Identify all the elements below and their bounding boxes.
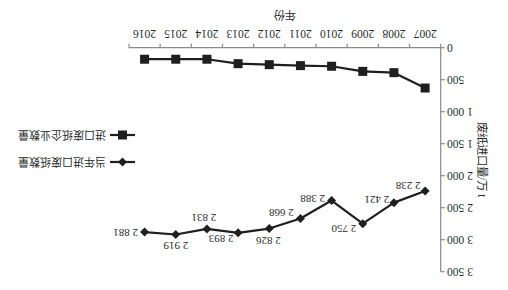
chart-container: 05001 0001 5002 0002 5003 0003 500200720… xyxy=(0,0,508,290)
y-axis-title: 废纸进口量/万 t xyxy=(476,122,489,198)
y-tick-label: 500 xyxy=(447,74,465,86)
y-tick-label: 2 000 xyxy=(447,170,473,182)
legend-square-icon xyxy=(118,131,127,140)
diamond-marker xyxy=(234,228,243,237)
square-marker xyxy=(234,59,243,68)
y-tick-label: 1 000 xyxy=(447,106,473,118)
y-tick-label: 0 xyxy=(447,42,453,54)
legend-label: 进口废纸企业数量 xyxy=(18,129,106,142)
data-label: 2 668 xyxy=(269,207,294,219)
y-tick-label: 3 000 xyxy=(447,234,473,246)
square-marker xyxy=(296,61,305,70)
x-axis-title: 年份 xyxy=(273,9,296,22)
series-line xyxy=(145,59,426,88)
square-marker xyxy=(421,84,430,93)
y-tick-label: 1 500 xyxy=(447,138,473,150)
legend-item-diamond: 当年进口废纸数量 xyxy=(18,156,135,169)
diamond-marker xyxy=(265,224,274,233)
diamond-marker xyxy=(171,230,180,239)
square-marker xyxy=(389,68,398,77)
diamond-marker xyxy=(296,214,305,223)
square-marker xyxy=(202,55,211,64)
data-label: 2 750 xyxy=(331,223,356,235)
line-chart: 05001 0001 5002 0002 5003 0003 500200720… xyxy=(0,0,508,290)
data-label: 2 826 xyxy=(255,235,280,247)
x-tick-label: 2012 xyxy=(258,28,281,40)
data-label: 2 388 xyxy=(300,193,325,205)
diamond-marker xyxy=(140,228,149,237)
data-label: 2 421 xyxy=(365,194,390,206)
square-marker xyxy=(140,55,149,64)
legend-diamond-icon xyxy=(118,158,127,167)
y-tick-label: 2 500 xyxy=(447,202,473,214)
square-marker xyxy=(171,55,180,64)
x-tick-label: 2008 xyxy=(382,28,405,40)
data-label: 2 893 xyxy=(208,233,233,245)
y-tick-label: 3 500 xyxy=(447,266,473,278)
square-marker xyxy=(327,62,336,71)
square-marker xyxy=(358,67,367,76)
x-tick-label: 2010 xyxy=(320,28,343,40)
data-label: 2 831 xyxy=(192,212,217,224)
x-tick-label: 2011 xyxy=(289,28,312,40)
square-marker xyxy=(265,60,274,69)
axes: 05001 0001 5002 0002 5003 0003 500200720… xyxy=(129,9,489,278)
legend-label: 当年进口废纸数量 xyxy=(18,156,106,169)
data-label: 2 881 xyxy=(113,227,138,239)
x-tick-label: 2013 xyxy=(226,28,249,40)
x-tick-label: 2014 xyxy=(195,28,218,40)
data-label: 2 238 xyxy=(395,180,420,192)
series-square xyxy=(140,55,430,93)
x-tick-label: 2009 xyxy=(351,28,374,40)
legend-item-square: 进口废纸企业数量 xyxy=(18,129,135,142)
data-label: 2 919 xyxy=(163,240,188,252)
diamond-marker xyxy=(421,186,430,195)
x-tick-label: 2007 xyxy=(413,28,436,40)
x-tick-label: 2016 xyxy=(133,28,156,40)
legend: 当年进口废纸数量进口废纸企业数量 xyxy=(18,129,135,169)
x-tick-label: 2015 xyxy=(164,28,187,40)
